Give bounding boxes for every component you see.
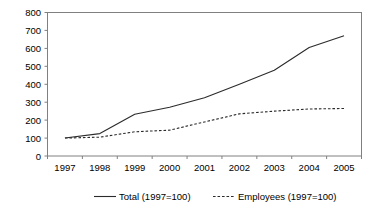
- x-tick-label-2003: 2003: [264, 162, 285, 173]
- y-tick-label-300: 300: [25, 97, 41, 108]
- x-tick-label-2005: 2005: [333, 162, 354, 173]
- series-line-total: [65, 36, 344, 138]
- x-tick-label-2004: 2004: [299, 162, 320, 173]
- y-axis-tick-labels: 800 700 600 500 400 300 200 100 0: [25, 7, 41, 162]
- x-tick-label-2001: 2001: [194, 162, 215, 173]
- x-tick-label-1997: 1997: [54, 162, 75, 173]
- y-tick-label-600: 600: [25, 43, 41, 54]
- x-tick-label-1998: 1998: [89, 162, 110, 173]
- series-line-employees: [65, 108, 344, 138]
- legend-label-total: Total (1997=100): [119, 191, 191, 202]
- chart-canvas: 800 700 600 500 400 300 200 100 0 199719…: [0, 0, 386, 215]
- y-tick-label-0: 0: [36, 151, 41, 162]
- y-tick-label-400: 400: [25, 79, 41, 90]
- y-tick-label-700: 700: [25, 25, 41, 36]
- x-tick-label-1999: 1999: [124, 162, 145, 173]
- y-tick-label-800: 800: [25, 7, 41, 18]
- legend-label-employees: Employees (1997=100): [238, 191, 337, 202]
- x-tick-label-2002: 2002: [229, 162, 250, 173]
- x-tick-label-2000: 2000: [159, 162, 180, 173]
- x-axis-tick-labels: 199719981999200020012002200320042005: [54, 162, 354, 173]
- y-tick-label-200: 200: [25, 115, 41, 126]
- line-chart: 800 700 600 500 400 300 200 100 0 199719…: [0, 0, 386, 215]
- y-tick-label-100: 100: [25, 133, 41, 144]
- y-tick-label-500: 500: [25, 61, 41, 72]
- chart-legend: Total (1997=100) Employees (1997=100): [94, 191, 337, 202]
